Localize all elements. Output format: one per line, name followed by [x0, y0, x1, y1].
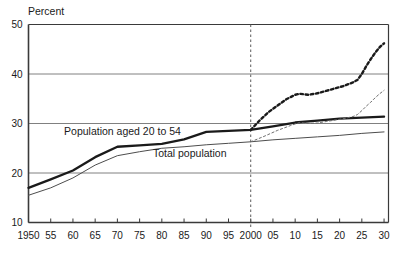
x-tick-label: 70	[112, 230, 124, 241]
x-tick-label: 20	[334, 230, 346, 241]
y-tick-label: 20	[11, 168, 23, 179]
x-tick-label: 85	[178, 230, 190, 241]
chart-figure: 1020304050 19505560657075808590952000051…	[0, 0, 404, 257]
x-axis-tick-labels: 19505560657075808590952000051015202530	[17, 230, 390, 241]
x-tick-label: 30	[378, 230, 390, 241]
x-tick-label: 80	[156, 230, 168, 241]
y-tick-label: 50	[11, 19, 23, 30]
line-chart: 1020304050 19505560657075808590952000051…	[0, 0, 404, 257]
y-tick-label: 10	[11, 217, 23, 228]
x-tick-label: 10	[290, 230, 302, 241]
x-tick-label: 60	[67, 230, 79, 241]
chart-background	[0, 0, 404, 257]
x-tick-label: 55	[45, 230, 57, 241]
x-tick-label: 05	[267, 230, 279, 241]
y-axis-title: Percent	[28, 5, 64, 17]
y-tick-label: 30	[11, 118, 23, 129]
y-tick-label: 40	[11, 69, 23, 80]
x-tick-label: 65	[90, 230, 102, 241]
x-tick-label: 90	[201, 230, 213, 241]
x-tick-label: 75	[134, 230, 146, 241]
series-annotation-1: Population aged 20 to 54	[64, 125, 181, 137]
x-tick-label: 25	[356, 230, 368, 241]
x-tick-label: 95	[223, 230, 235, 241]
x-tick-label: 2000	[240, 230, 263, 241]
x-tick-label: 15	[312, 230, 324, 241]
x-tick-label: 1950	[17, 230, 40, 241]
series-annotation-2: Total population	[153, 147, 227, 159]
